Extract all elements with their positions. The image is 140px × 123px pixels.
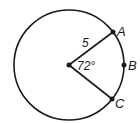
label-c: C (115, 96, 125, 111)
point-c (110, 97, 115, 102)
circle-diagram: A B C 5 72° (0, 0, 140, 123)
label-b: B (128, 58, 137, 73)
label-a: A (116, 24, 126, 39)
point-a (111, 30, 116, 35)
central-angle-label: 72° (77, 59, 95, 73)
point-b (122, 63, 127, 68)
center-point (67, 63, 72, 68)
radius-length-label: 5 (82, 36, 89, 50)
